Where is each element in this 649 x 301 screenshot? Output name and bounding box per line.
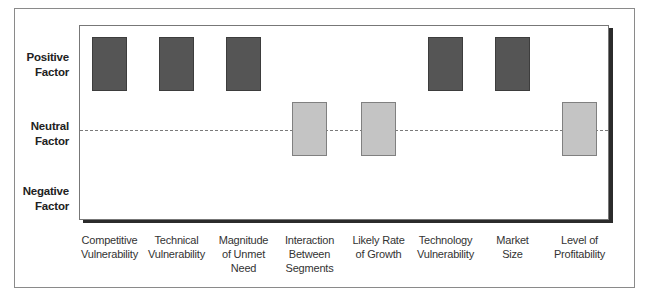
x-label-line: Vulnerability bbox=[74, 247, 146, 261]
y-label-neutral: Neutral Factor bbox=[0, 119, 69, 149]
y-label-positive-line1: Positive bbox=[0, 50, 69, 65]
bar-technology-vulnerability bbox=[428, 37, 463, 91]
x-label: MarketSize bbox=[477, 233, 549, 261]
bar-interaction-between-segments bbox=[292, 102, 327, 156]
y-label-positive: Positive Factor bbox=[0, 50, 69, 80]
neutral-reference-line bbox=[80, 130, 608, 131]
bar-competitive-vulnerability bbox=[92, 37, 127, 91]
bar-likely-rate-of-growth bbox=[361, 102, 396, 156]
x-label-line: Market bbox=[477, 233, 549, 247]
x-label-line: Likely Rate bbox=[343, 233, 415, 247]
x-label-line: Vulnerability bbox=[141, 247, 213, 261]
x-label-line: Segments bbox=[274, 261, 346, 275]
x-label: Magnitudeof UnmetNeed bbox=[208, 233, 280, 275]
x-label-line: of Growth bbox=[343, 247, 415, 261]
x-label-line: Magnitude bbox=[208, 233, 280, 247]
x-label: Likely Rateof Growth bbox=[343, 233, 415, 261]
x-label: Level ofProfitability bbox=[544, 233, 616, 261]
x-label: TechnicalVulnerability bbox=[141, 233, 213, 261]
y-label-negative-line1: Negative bbox=[0, 184, 69, 199]
x-label-line: Between bbox=[274, 247, 346, 261]
x-label-line: Interaction bbox=[274, 233, 346, 247]
bar-magnitude-of-unmet-need bbox=[226, 37, 261, 91]
x-label-line: of Unmet bbox=[208, 247, 280, 261]
x-label: InteractionBetweenSegments bbox=[274, 233, 346, 275]
x-label-line: Size bbox=[477, 247, 549, 261]
x-label-line: Profitability bbox=[544, 247, 616, 261]
y-label-negative-line2: Factor bbox=[0, 199, 69, 214]
x-label-line: Competitive bbox=[74, 233, 146, 247]
x-label: TechnologyVulnerability bbox=[410, 233, 482, 261]
y-label-neutral-line1: Neutral bbox=[0, 119, 69, 134]
y-label-neutral-line2: Factor bbox=[0, 134, 69, 149]
bar-level-of-profitability bbox=[562, 102, 597, 156]
y-label-negative: Negative Factor bbox=[0, 184, 69, 214]
y-label-positive-line2: Factor bbox=[0, 65, 69, 80]
x-label-line: Need bbox=[208, 261, 280, 275]
bar-technical-vulnerability bbox=[159, 37, 194, 91]
bar-market-size bbox=[495, 37, 530, 91]
x-label-line: Level of bbox=[544, 233, 616, 247]
x-label-line: Vulnerability bbox=[410, 247, 482, 261]
x-label-line: Technology bbox=[410, 233, 482, 247]
x-label: CompetitiveVulnerability bbox=[74, 233, 146, 261]
x-label-line: Technical bbox=[141, 233, 213, 247]
